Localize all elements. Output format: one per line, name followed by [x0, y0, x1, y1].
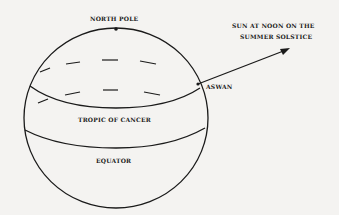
sun-label-line2: SUMMER SOLSTICE	[240, 33, 312, 41]
tropic-of-cancer-label: TROPIC OF CANCER	[78, 116, 151, 124]
north-pole-label: NORTH POLE	[90, 15, 138, 23]
arrowhead-icon	[280, 48, 290, 55]
sun-ray-arrow	[198, 50, 286, 84]
tropic-of-cancer-line	[30, 86, 200, 108]
sun-label-line1: SUN AT NOON ON THE	[232, 22, 315, 30]
equator-line	[25, 128, 205, 148]
aswan-label: ASWAN	[206, 83, 232, 91]
north-pole-dot	[114, 27, 118, 31]
equator-label: EQUATOR	[96, 157, 131, 165]
aswan-dot	[196, 82, 199, 85]
